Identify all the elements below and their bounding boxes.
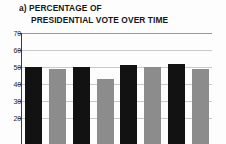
bar-4: [97, 79, 114, 144]
bar-3: [73, 67, 90, 144]
bar-8: [192, 69, 209, 144]
gridline-60: [22, 50, 212, 51]
y-tick-label-30: 30: [1, 98, 21, 105]
y-tick-label-50: 50: [1, 64, 21, 71]
bar-7: [168, 64, 185, 144]
chart-title-line-1: a) PERCENTAGE OF: [19, 2, 102, 14]
gridline-70: [22, 33, 212, 34]
bar-2: [49, 69, 66, 144]
y-tick-label-20: 20: [1, 115, 21, 122]
bar-1: [25, 67, 42, 144]
y-tick-label-40: 40: [1, 81, 21, 88]
y-tick-label-60: 60: [1, 47, 21, 54]
bar-6: [144, 67, 161, 144]
bar-5: [120, 65, 137, 144]
y-tick-label-70: 70: [1, 30, 21, 37]
plot-area: [22, 33, 212, 144]
chart-title: a) PERCENTAGE OF PRESIDENTIAL VOTE OVER …: [0, 1, 226, 27]
chart-figure: a) PERCENTAGE OF PRESIDENTIAL VOTE OVER …: [0, 0, 226, 144]
chart-title-line-2: PRESIDENTIAL VOTE OVER TIME: [31, 14, 168, 26]
